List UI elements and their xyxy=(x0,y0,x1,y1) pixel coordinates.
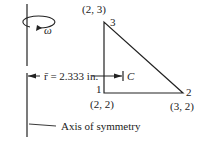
node-2-id: 2 xyxy=(186,87,192,98)
node-3-coord: (2, 3) xyxy=(82,4,106,15)
axis-leader-line xyxy=(29,124,56,126)
node-3-id: 3 xyxy=(110,17,116,28)
radius-label: r̄ = 2.333 in. xyxy=(44,71,98,82)
axis-of-symmetry-label: Axis of symmetry xyxy=(61,121,140,132)
node-2-coord: (3, 2) xyxy=(170,101,194,112)
omega-label: ω xyxy=(44,25,52,36)
node-1-id: 1 xyxy=(96,84,102,95)
centroid-label: C xyxy=(127,71,134,82)
node-1-coord: (2, 2) xyxy=(90,99,114,110)
triangle-element xyxy=(104,22,183,93)
